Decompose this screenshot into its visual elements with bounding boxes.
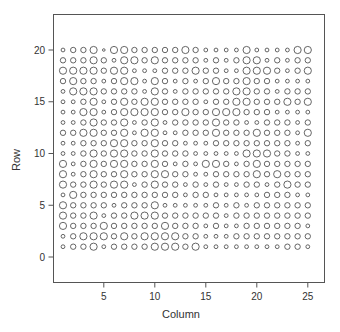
data-point [285,234,290,239]
data-point [61,152,65,156]
data-point [284,98,291,105]
data-point [244,182,249,187]
data-point [162,192,167,197]
data-point [275,182,280,187]
data-point [224,99,229,104]
x-axis: 510152025 [101,283,314,303]
data-point [111,213,116,218]
y-tick-label: 20 [34,45,46,56]
data-point [224,172,229,177]
data-point [132,99,137,104]
data-point [265,48,269,52]
data-point [295,182,300,187]
data-point [103,49,106,52]
data-point [173,213,178,218]
data-point [305,141,310,146]
y-tick-label: 15 [34,96,46,107]
data-point [224,89,229,94]
data-point [143,69,147,73]
data-point [212,78,219,85]
data-point [132,234,137,239]
data-point [81,203,86,208]
data-point [152,192,157,197]
data-point [193,58,198,63]
data-point [172,243,179,250]
data-point [173,223,178,228]
data-point [305,58,310,63]
data-point [254,234,259,239]
data-point [151,98,158,105]
data-point [243,46,250,53]
data-point [162,161,167,166]
data-point [162,213,167,218]
data-point [81,223,86,228]
data-point [142,47,147,52]
data-point [151,243,158,250]
data-point [162,78,167,83]
data-point [264,234,269,239]
data-point [172,233,179,240]
data-point [91,223,96,228]
data-point [112,203,116,207]
data-point [90,98,97,105]
data-point [91,141,96,146]
data-point [141,233,148,240]
data-point [71,213,76,218]
data-point [173,131,177,135]
data-point [204,141,208,145]
data-point [305,182,310,187]
data-point [213,99,218,104]
data-point [295,234,300,239]
data-point [254,89,259,94]
data-point [81,161,86,166]
data-point [162,47,167,52]
data-point [264,213,269,218]
data-point [204,234,208,238]
data-point [253,150,260,157]
data-point [244,234,249,239]
data-point [111,89,116,94]
data-point [285,161,290,166]
data-point [80,129,87,136]
x-axis-label: Column [162,308,200,320]
data-point [153,69,157,73]
data-point [141,212,148,219]
data-point [121,181,128,188]
data-point [60,78,65,83]
data-point [253,160,260,167]
data-point [193,99,198,104]
data-point [183,151,188,156]
data-point [194,203,198,207]
data-point [204,183,208,187]
data-point [183,244,188,249]
data-point [275,234,280,239]
data-point [80,88,87,95]
data-point [132,151,137,156]
data-point [264,141,269,146]
data-point [264,78,269,83]
data-point [295,223,300,228]
bubble-grid-chart: 510152025 05101520 Column Row [0,0,340,332]
data-point [162,141,167,146]
data-point [81,58,86,63]
data-point [142,244,147,249]
data-point [59,67,66,74]
data-point [101,182,106,187]
data-point [233,109,240,116]
data-point [295,172,300,177]
data-point [122,223,127,228]
data-point [264,223,269,228]
data-point [254,182,259,187]
data-point [102,245,106,249]
data-point [90,212,97,219]
data-point [101,130,106,135]
data-point [121,150,128,157]
data-point [254,109,259,114]
data-point [275,203,280,208]
data-point [184,203,188,207]
data-point [162,99,167,104]
data-point [295,244,300,249]
data-point [204,152,208,156]
data-point [244,223,249,228]
data-point [224,203,228,207]
